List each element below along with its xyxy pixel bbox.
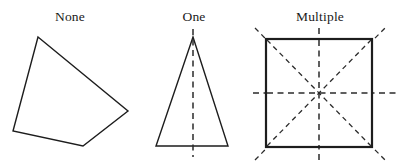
symmetry-figure: None One Multiple <box>0 0 399 164</box>
panel-multiple-label: Multiple <box>296 9 344 24</box>
panel-one-label: One <box>182 9 205 24</box>
panel-none-label: None <box>55 9 85 24</box>
